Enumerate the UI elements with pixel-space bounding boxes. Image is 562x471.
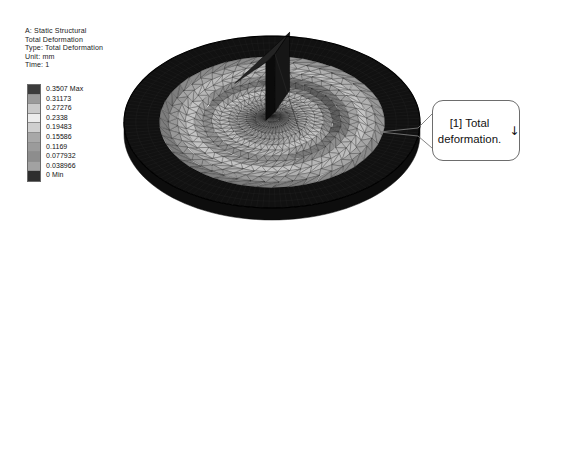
legend-value-label: 0.15586 — [46, 132, 83, 142]
legend-swatch — [28, 171, 40, 181]
result-panel-directional-deformation: A: Static Structural Y Axis - Directiona… — [0, 243, 562, 471]
legend-swatch — [28, 123, 40, 133]
legend-value-label: 0.19483 — [46, 122, 83, 132]
legend-value-label: 0.3507 Max — [46, 84, 83, 94]
down-arrow-icon: ↓ — [506, 123, 519, 139]
legend-value-label: 0.2338 — [46, 113, 83, 123]
legend-value-label: 0.31173 — [46, 94, 83, 104]
legend-value-label: 0.077932 — [46, 151, 83, 161]
legend-label-list: 0.3507 Max0.311730.272760.23380.194830.1… — [46, 84, 83, 180]
header-line: Time: 1 — [25, 61, 103, 70]
result-header-total-deformation: A: Static Structural Total Deformation T… — [25, 27, 103, 70]
legend-value-label: 0.27276 — [46, 103, 83, 113]
legend-value-label: 0.038966 — [46, 161, 83, 171]
legend-swatch — [28, 104, 40, 114]
result-panel-total-deformation: A: Static Structural Total Deformation T… — [0, 0, 562, 240]
legend-swatch — [28, 114, 40, 124]
header-line: Type: Total Deformation — [25, 44, 103, 53]
legend-swatch — [28, 85, 40, 95]
legend-swatch — [28, 95, 40, 105]
header-line: A: Static Structural — [25, 27, 103, 36]
legend-swatch — [28, 133, 40, 143]
header-line: Total Deformation — [25, 36, 103, 45]
callout-leader-line-1 — [380, 98, 440, 162]
legend-swatch — [28, 152, 40, 162]
legend-color-bar — [27, 84, 41, 182]
callout-box-total-deformation[interactable]: [1] Total deformation.↓ — [432, 100, 520, 161]
callout-label: [1] Total deformation. — [433, 115, 506, 147]
legend-value-label: 0 Min — [46, 170, 83, 180]
legend-swatch — [28, 162, 40, 172]
legend-swatch — [28, 143, 40, 153]
contour-legend-total-deformation: 0.3507 Max0.311730.272760.23380.194830.1… — [27, 84, 83, 182]
header-line: Unit: mm — [25, 53, 103, 62]
legend-value-label: 0.1169 — [46, 142, 83, 152]
